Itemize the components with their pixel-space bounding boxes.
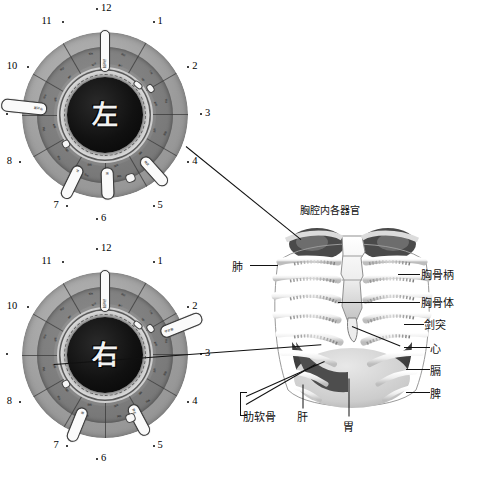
sector-micro-text: 鼻心 <box>118 305 123 309</box>
marker-text: 肺支 <box>144 159 151 166</box>
clock-tick-10: 10 <box>7 300 18 311</box>
clock-tick-12: 12 <box>101 2 112 13</box>
sector-micro-text: 腿胰 <box>43 367 47 372</box>
clock-tick-5: 5 <box>158 199 163 210</box>
leader-spleen <box>406 392 430 393</box>
clock-tick-11: 11 <box>42 255 52 266</box>
sector-micro-text: 胰脾 <box>88 401 93 405</box>
leader-liver <box>303 385 304 409</box>
clock-tick-dot <box>96 458 98 460</box>
clock-tick-7: 7 <box>54 439 59 450</box>
sector-micro-text: 脑颈 <box>92 64 97 68</box>
marker-12-oclock: 脑神经 <box>100 270 110 312</box>
leader-diaphragm <box>406 369 430 370</box>
label-diaphragm: 膈 <box>430 362 441 378</box>
left-iris-pupil: 左 <box>67 77 143 153</box>
left-eye-character: 左 <box>92 102 118 128</box>
clock-tick-11: 11 <box>42 15 52 26</box>
clock-tick-dot <box>62 261 64 263</box>
leader-stomach <box>349 379 350 417</box>
marker-text: 肝 <box>76 169 81 173</box>
sector-micro-text: 胆膀 <box>114 163 119 167</box>
clock-tick-dot <box>200 353 202 355</box>
leader-manubrium <box>398 274 420 275</box>
label-xiphoid: 剑突 <box>424 316 446 332</box>
sector-micro-text: 腹肠 <box>54 124 58 129</box>
sector-micro-text: 腰腰 <box>162 131 166 136</box>
right-iris-pupil: 右 <box>67 317 143 393</box>
connector-left-iris-to-lung <box>186 146 302 240</box>
label-costal-cartilage: 肋软骨 <box>243 408 276 424</box>
marker-text: 脑神经 <box>103 59 107 68</box>
sector-micro-text: 肠脾 <box>117 413 122 417</box>
clock-tick-5: 5 <box>158 439 163 450</box>
sector-micro-text: 肾肾 <box>151 128 155 133</box>
sector-micro-text: 喉颈 <box>60 308 65 313</box>
figure-canvas: 脑咽额肺鼻心咽肝鼻肺咽心肺肝心胃肺心心肝肝胃胃肾肝肝胃胃肾肾腰腰肾胃腰肾膀腰脾膀… <box>0 0 478 485</box>
label-lung: 肺 <box>232 258 243 274</box>
clock-tick-12: 12 <box>101 242 112 253</box>
clock-tick-4: 4 <box>192 155 197 166</box>
marker-text: 胃 <box>105 172 109 175</box>
label-spleen: 脾 <box>430 385 441 401</box>
sector-micro-text: 眼甲 <box>68 75 73 80</box>
clock-tick-2: 2 <box>192 300 197 311</box>
sector-micro-text: 腰腰 <box>162 371 166 376</box>
marker-text: 甲状腺 <box>34 107 43 112</box>
clock-tick-7: 7 <box>54 199 59 210</box>
clock-tick-dot <box>66 445 68 447</box>
clock-tick-6: 6 <box>101 452 106 463</box>
clock-tick-dot <box>66 205 68 207</box>
leader-lung <box>250 265 278 266</box>
sector-micro-text: 胰脾 <box>88 161 93 165</box>
clock-tick-dot <box>153 205 155 207</box>
clock-tick-dot <box>62 21 64 23</box>
leader-sternum-body <box>338 302 420 303</box>
clock-tick-dot <box>200 113 202 115</box>
clock-tick-dot <box>27 66 29 68</box>
marker-text: 脑神经 <box>103 299 107 308</box>
sector-micro-text: 眼甲 <box>68 315 73 320</box>
marker-12-oclock: 脑神经 <box>100 30 110 72</box>
sector-micro-text: 肝胃 <box>153 342 157 347</box>
leader-heart <box>404 347 430 348</box>
sector-micro-text: 耳甲 <box>44 335 48 340</box>
clock-tick-8: 8 <box>7 155 12 166</box>
clock-tick-dot <box>153 261 155 263</box>
sector-micro-text: 鼻心 <box>118 65 123 69</box>
clock-tick-dot <box>187 66 189 68</box>
clock-tick-1: 1 <box>158 255 163 266</box>
sector-micro-text: 腿胰 <box>43 127 47 132</box>
clock-tick-1: 1 <box>158 15 163 26</box>
sector-micro-text: 喉颈 <box>60 68 65 73</box>
clock-tick-dot <box>96 248 98 250</box>
sector-micro-text: 膀腰 <box>137 150 142 155</box>
sector-micro-text: 足胰 <box>55 338 59 343</box>
label-stomach: 胃 <box>343 418 354 434</box>
label-manubrium: 胸骨柄 <box>421 266 454 282</box>
sector-micro-text: 背肠 <box>58 155 63 160</box>
marker-6-oclock: 胃 <box>100 168 114 200</box>
sector-micro-text: 胆膀 <box>114 403 119 407</box>
sector-micro-text: 心胃 <box>148 70 153 75</box>
sector-micro-text: 咽肝 <box>121 54 126 58</box>
clock-tick-dot <box>96 8 98 10</box>
sector-micro-text: 肝胃 <box>153 102 157 107</box>
clock-tick-4: 4 <box>192 395 197 406</box>
clock-tick-dot <box>6 113 8 115</box>
anatomy-title: 胸腔内各器官 <box>300 202 360 217</box>
clock-tick-dot <box>27 306 29 308</box>
sector-micro-text: 脾膀 <box>145 398 150 403</box>
sector-micro-text: 背肠 <box>58 395 63 400</box>
clock-tick-2: 2 <box>192 60 197 71</box>
clock-tick-dot <box>6 353 8 355</box>
clock-tick-dot <box>19 401 21 403</box>
sector-micro-text: 胃肾 <box>163 339 167 344</box>
clock-tick-3: 3 <box>205 347 210 358</box>
sector-micro-text: 膀腰 <box>137 390 142 395</box>
clock-tick-dot <box>187 161 189 163</box>
marker-text: 甲状腺 <box>164 327 174 334</box>
label-liver: 肝 <box>297 408 308 424</box>
clock-tick-dot <box>153 445 155 447</box>
label-heart: 心 <box>430 340 441 356</box>
